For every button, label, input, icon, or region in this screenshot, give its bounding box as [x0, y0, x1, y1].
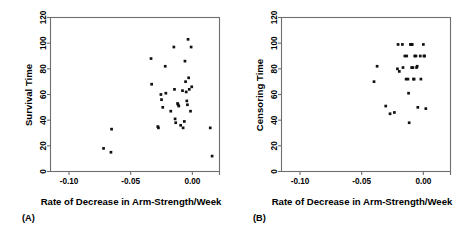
panel-a-x-axis-title: Rate of Decrease in Arm-Strength/Week	[41, 196, 222, 207]
data-point	[189, 110, 192, 113]
y-tick-label: 100	[39, 36, 48, 50]
panel-b-data-points	[373, 43, 428, 124]
panel-a-axes: 020406080100120 -0.10-0.050.00	[39, 10, 220, 185]
data-point	[177, 105, 180, 108]
x-tick-label: 0.00	[415, 177, 431, 186]
y-tick-label: 120	[270, 10, 279, 24]
data-point	[174, 121, 177, 124]
data-point	[396, 67, 399, 70]
data-point	[416, 65, 419, 68]
data-point	[188, 88, 191, 91]
data-point	[184, 80, 187, 83]
data-point	[423, 55, 426, 58]
panel-b-y-tick-labels: 020406080100120	[270, 10, 279, 174]
x-tick-label: -0.05	[121, 177, 140, 186]
x-tick-label: -0.05	[352, 177, 371, 186]
data-point	[401, 43, 404, 46]
y-tick-label: 60	[270, 90, 279, 100]
data-point	[187, 38, 190, 41]
panel-a-y-tick-labels: 020406080100120	[39, 10, 48, 174]
data-point	[182, 127, 185, 130]
y-tick-label: 40	[270, 115, 279, 125]
data-point	[184, 60, 187, 63]
y-tick-label: 0	[270, 169, 279, 174]
data-point	[110, 151, 113, 154]
data-point	[185, 100, 188, 103]
data-point	[179, 124, 182, 127]
data-point	[164, 92, 167, 95]
panel-b-svg: 020406080100120 -0.10-0.050.00 Censoring…	[231, 0, 462, 233]
data-point	[415, 55, 418, 58]
scatter-panel-a: 020406080100120 -0.10-0.050.00 Survival …	[0, 0, 231, 233]
panel-a-svg: 020406080100120 -0.10-0.050.00 Survival …	[0, 0, 231, 233]
data-point	[422, 43, 425, 46]
data-point	[397, 43, 400, 46]
panel-a-data-points	[102, 38, 213, 157]
panel-a-x-tick-labels: -0.10-0.050.00	[60, 177, 201, 186]
data-point	[173, 88, 176, 91]
data-point	[402, 66, 405, 69]
data-point	[211, 155, 214, 158]
data-point	[181, 89, 184, 92]
x-tick-label: -0.10	[291, 177, 310, 186]
data-point	[393, 111, 396, 114]
data-point	[183, 120, 186, 123]
data-point	[405, 55, 408, 58]
data-point	[160, 98, 163, 101]
data-point	[174, 118, 177, 121]
panel-b-caption: (B)	[253, 213, 266, 223]
data-point	[187, 76, 190, 79]
figure-container: 020406080100120 -0.10-0.050.00 Survival …	[0, 0, 462, 233]
data-point	[190, 46, 193, 49]
data-point	[384, 105, 387, 108]
data-point	[424, 107, 427, 110]
data-point	[160, 93, 163, 96]
y-tick-label: 80	[39, 64, 48, 74]
data-point	[373, 80, 376, 83]
data-point	[407, 78, 410, 81]
data-point	[407, 92, 410, 95]
data-point	[161, 106, 164, 109]
y-tick-label: 60	[39, 90, 48, 100]
panel-a-plot-frame	[51, 18, 220, 172]
data-point	[102, 147, 105, 150]
data-point	[110, 128, 113, 131]
panel-b-y-axis-title: Censoring Time	[254, 59, 265, 131]
y-tick-label: 20	[270, 141, 279, 151]
panel-b-x-axis-title: Rate of Decrease in Arm-Strength/Week	[272, 196, 453, 207]
y-tick-label: 40	[39, 115, 48, 125]
data-point	[150, 57, 153, 60]
data-point	[150, 83, 153, 86]
data-point	[416, 106, 419, 109]
panel-b-plot-frame	[282, 18, 451, 172]
panel-a-y-axis-title: Survival Time	[23, 64, 34, 126]
panel-a-caption: (A)	[22, 213, 35, 223]
y-tick-label: 20	[39, 141, 48, 151]
data-point	[209, 127, 212, 130]
data-point	[156, 125, 159, 128]
y-tick-label: 0	[39, 169, 48, 174]
data-point	[420, 78, 423, 81]
data-point	[169, 110, 172, 113]
y-tick-label: 100	[270, 36, 279, 50]
data-point	[398, 70, 401, 73]
data-point	[411, 43, 414, 46]
data-point	[376, 65, 379, 68]
x-tick-label: 0.00	[184, 177, 200, 186]
y-tick-label: 120	[39, 10, 48, 24]
data-point	[413, 78, 416, 81]
x-tick-label: -0.10	[60, 177, 79, 186]
data-point	[190, 85, 193, 88]
data-point	[185, 91, 188, 94]
panel-b-x-tick-labels: -0.10-0.050.00	[291, 177, 432, 186]
data-point	[186, 103, 189, 106]
data-point	[419, 55, 422, 58]
data-point	[389, 112, 392, 115]
scatter-panel-b: 020406080100120 -0.10-0.050.00 Censoring…	[231, 0, 462, 233]
panel-b-axes: 020406080100120 -0.10-0.050.00	[270, 10, 451, 185]
data-point	[408, 121, 411, 124]
data-point	[164, 65, 167, 68]
data-point	[173, 46, 176, 49]
data-point	[412, 66, 415, 69]
y-tick-label: 80	[270, 64, 279, 74]
